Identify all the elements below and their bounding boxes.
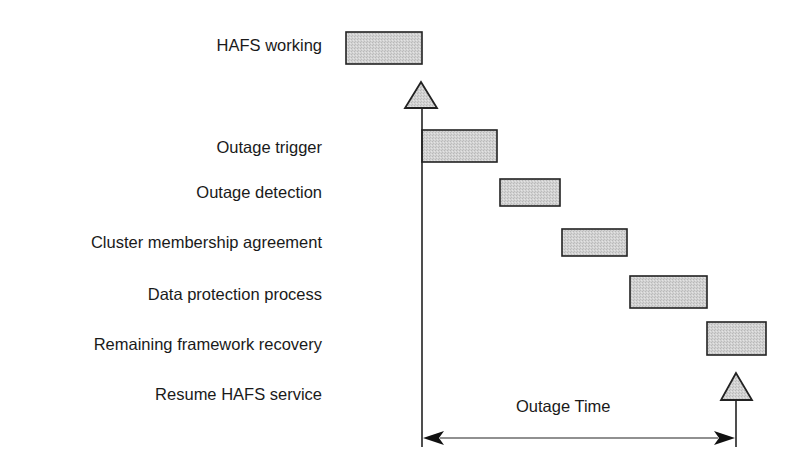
bar-outage-trigger — [422, 130, 497, 162]
bar-data-protection-process — [630, 276, 707, 308]
outage-time-label: Outage Time — [516, 396, 610, 416]
end-triangle-icon — [721, 373, 752, 400]
bar-remaining-framework-recovery — [707, 322, 766, 355]
bar-cluster-membership-agreement — [562, 229, 627, 256]
bar-hafs-working — [346, 32, 422, 64]
bar-outage-detection — [500, 179, 560, 206]
start-triangle-icon — [405, 82, 437, 108]
outage-timeline-diagram: HAFS working Outage trigger Outage detec… — [0, 0, 795, 471]
timeline-graphics — [0, 0, 795, 471]
